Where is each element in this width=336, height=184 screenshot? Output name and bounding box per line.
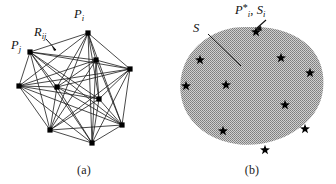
pistar-leader-line (257, 20, 266, 28)
figure-container: Pi Rij Pj (a) S P*i, Si (b) (0, 0, 336, 184)
graph-edge (19, 60, 96, 86)
panel-a: Pi Rij Pj (a) (0, 0, 168, 184)
graph-node (119, 122, 124, 127)
caption-a: (a) (0, 163, 168, 178)
graph-node (85, 30, 90, 35)
label-node-pj: Pj (11, 39, 21, 53)
graph-node (96, 96, 101, 101)
graph-edge (50, 130, 92, 143)
graph-node (93, 57, 98, 62)
graph-node (89, 140, 94, 145)
graph-edges (19, 33, 130, 143)
label-point-pistar-si: P*i, Si (235, 3, 265, 18)
graph-edge (88, 33, 92, 143)
graph-node (127, 66, 132, 71)
region-point-star (260, 145, 270, 154)
graph-edge (50, 87, 57, 130)
graph-edge (19, 86, 50, 130)
rij-leader-arrowhead (53, 47, 57, 51)
region-s-blob (180, 27, 323, 145)
graph-edge (19, 69, 130, 86)
complete-graph-svg (0, 0, 168, 184)
graph-edge (99, 69, 130, 99)
panel-b: S P*i, Si (b) (168, 0, 336, 184)
graph-node (47, 127, 52, 132)
graph-node (16, 83, 21, 88)
graph-node (54, 84, 59, 89)
graph-edge (99, 99, 122, 125)
label-region-s: S (193, 22, 199, 35)
graph-edge (19, 52, 30, 86)
label-edge-rij: Rij (34, 26, 46, 40)
graph-edge (50, 125, 122, 130)
graph-node (27, 49, 32, 54)
caption-b: (b) (168, 163, 336, 178)
label-node-pi: Pi (74, 8, 84, 22)
